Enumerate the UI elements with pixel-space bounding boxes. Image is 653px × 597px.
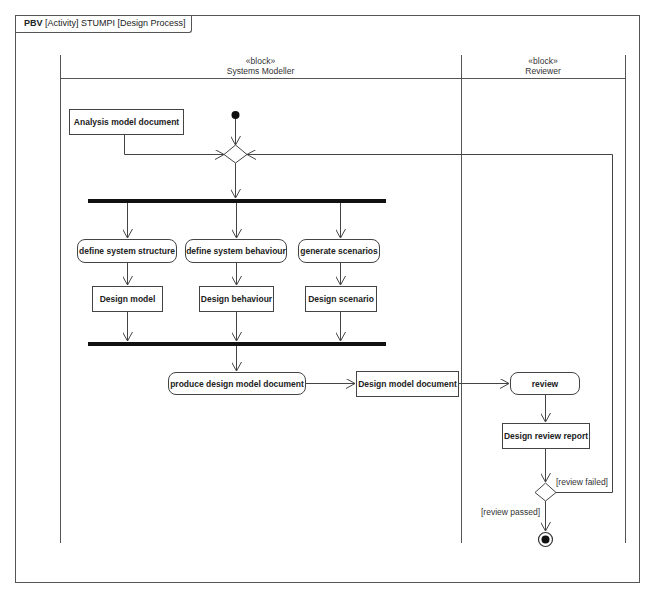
action-generate-scenarios[interactable]: generate scenarios [298,239,380,263]
fork-bar [88,199,386,203]
object-analysis-model-document[interactable]: Analysis model document [69,109,184,135]
object-design-scenario[interactable]: Design scenario [305,286,377,312]
join-bar [88,342,386,346]
merge-node [224,145,247,163]
object-design-behaviour[interactable]: Design behaviour [199,286,274,312]
lane-stereotype: «block» [60,56,461,66]
decision-node [535,483,556,501]
action-produce-design-model-document[interactable]: produce design model document [168,372,306,395]
final-node-dot [542,536,550,544]
lane-name: Systems Modeller [60,66,461,76]
initial-node [232,111,240,119]
lane-header-systems-modeller: «block» Systems Modeller [60,56,461,76]
action-define-system-structure[interactable]: define system structure [77,239,177,263]
lane-header-reviewer: «block» Reviewer [461,56,625,76]
object-design-model-document[interactable]: Design model document [356,371,459,397]
lane-name: Reviewer [461,66,625,76]
guard-review-passed: [review passed] [481,507,540,517]
lane-stereotype: «block» [461,56,625,66]
action-review[interactable]: review [510,372,580,395]
guard-review-failed: [review failed] [556,477,608,487]
action-define-system-behaviour[interactable]: define system behaviour [185,239,287,263]
object-design-review-report[interactable]: Design review report [502,423,590,449]
object-design-model[interactable]: Design model [92,286,163,312]
